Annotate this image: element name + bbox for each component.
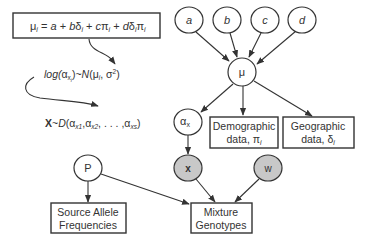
edge-mu-to-geographic <box>254 81 312 116</box>
node-c: c <box>251 7 279 33</box>
node-d: d <box>288 7 316 33</box>
curve-arrow-eq-to-log <box>89 39 115 64</box>
edge-mu-to-alpha <box>201 84 233 112</box>
edge-x-to-mixture <box>196 179 215 202</box>
node-w: w <box>254 155 282 181</box>
svg-text:c: c <box>262 14 268 26</box>
edge-c-to-mu <box>249 33 261 57</box>
edge-w-to-mixture <box>235 179 259 202</box>
svg-text:data, πi: data, πi <box>226 133 262 146</box>
svg-text:Geographic: Geographic <box>291 120 345 132</box>
node-mu: μ <box>228 58 256 86</box>
mixture-genotypes-box: Mixture Genotypes <box>191 203 252 233</box>
node-x: x <box>174 155 202 181</box>
svg-text:P: P <box>84 162 91 174</box>
node-a: a <box>175 7 203 33</box>
svg-text:d: d <box>299 14 306 26</box>
svg-text:x: x <box>185 163 191 174</box>
equation-text: μi = a + bδi + cπi + dδiπi <box>30 20 146 33</box>
node-alpha-x: αx <box>174 109 202 135</box>
log-normal-formula: log(αxi)~N(μi, σ2) <box>44 68 120 83</box>
edge-a-to-mu <box>196 32 229 61</box>
edge-p-to-mixture <box>101 174 189 204</box>
svg-text:Genotypes: Genotypes <box>196 219 247 231</box>
svg-text:b: b <box>224 14 230 26</box>
svg-text:Frequencies: Frequencies <box>59 219 117 231</box>
svg-text:w: w <box>263 163 272 174</box>
svg-text:Mixture: Mixture <box>204 206 239 218</box>
edge-d-to-mu <box>257 31 296 64</box>
svg-text:Demographic: Demographic <box>213 120 275 132</box>
equation-box: μi = a + bδi + cπi + dδiπi <box>13 13 160 38</box>
svg-text:μ: μ <box>239 66 245 78</box>
dirichlet-formula: X~D(αx1,αx2, . . . ,αxs) <box>45 117 140 130</box>
node-b: b <box>213 7 241 33</box>
curve-arrow-log-to-x <box>26 77 98 106</box>
geographic-data-box: Geographic data, δi <box>283 117 354 148</box>
node-p: P <box>74 155 102 181</box>
edge-b-to-mu <box>230 33 237 57</box>
svg-text:Source Allele: Source Allele <box>57 206 118 218</box>
svg-text:a: a <box>186 14 192 26</box>
demographic-data-box: Demographic data, πi <box>210 117 278 148</box>
svg-text:data, δi: data, δi <box>301 133 335 146</box>
source-allele-frequencies-box: Source Allele Frequencies <box>51 203 126 233</box>
bayesian-network-diagram: μi = a + bδi + cπi + dδiπi log(αxi)~N(μi… <box>0 0 367 240</box>
